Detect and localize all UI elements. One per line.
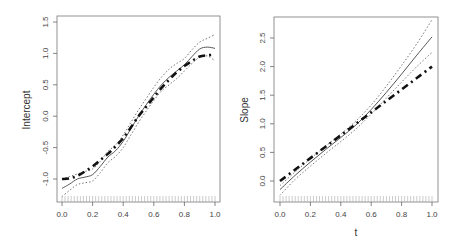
x-tick-label: 1.0 bbox=[209, 210, 221, 219]
intercept-panel: 0.00.20.40.60.81.0-1.0-0.50.00.51.01.5 bbox=[41, 16, 221, 219]
y-tick-label: 2.5 bbox=[258, 32, 267, 44]
series-estimate bbox=[280, 37, 432, 190]
y-tick-label: -0.5 bbox=[41, 140, 50, 154]
y-tick-label: -1.0 bbox=[41, 172, 50, 186]
series-estimate bbox=[62, 47, 215, 188]
x-tick-label: 0.4 bbox=[118, 210, 130, 219]
y-axis-label-intercept: Intercept bbox=[21, 90, 32, 129]
x-axis-label-t: t bbox=[355, 227, 358, 238]
y-tick-label: 1.0 bbox=[41, 47, 50, 59]
x-tick-label: 0.6 bbox=[366, 210, 378, 219]
series-lower-band bbox=[62, 56, 215, 197]
series-upper-band bbox=[280, 20, 432, 186]
y-tick-label: 1.5 bbox=[258, 89, 267, 101]
plot-frame bbox=[274, 17, 438, 202]
y-tick-label: 0.0 bbox=[258, 175, 267, 187]
y-tick-label: 0.5 bbox=[258, 146, 267, 158]
y-tick-label: 1.0 bbox=[258, 118, 267, 130]
y-tick-label: 0.5 bbox=[41, 79, 50, 91]
x-tick-label: 0.8 bbox=[396, 210, 408, 219]
y-axis-label-slope: Slope bbox=[239, 97, 250, 123]
x-tick-label: 0.0 bbox=[274, 210, 286, 219]
series-lower-band bbox=[280, 52, 432, 195]
x-tick-label: 0.8 bbox=[179, 210, 191, 219]
x-tick-label: 0.4 bbox=[335, 210, 347, 219]
y-tick-label: 2.0 bbox=[258, 60, 267, 72]
series-true-function bbox=[280, 67, 432, 181]
x-tick-label: 0.2 bbox=[305, 210, 317, 219]
x-tick-label: 0.6 bbox=[148, 210, 160, 219]
x-tick-label: 0.0 bbox=[56, 210, 68, 219]
y-tick-label: 0.0 bbox=[41, 110, 50, 122]
y-tick-label: 1.5 bbox=[41, 16, 50, 28]
chart-figure: 0.00.20.40.60.81.0-1.0-0.50.00.51.01.5 0… bbox=[0, 0, 468, 248]
x-tick-label: 0.2 bbox=[87, 210, 99, 219]
x-tick-label: 1.0 bbox=[426, 210, 438, 219]
slope-panel: 0.00.20.40.60.81.00.00.51.01.52.02.5 bbox=[258, 17, 438, 219]
